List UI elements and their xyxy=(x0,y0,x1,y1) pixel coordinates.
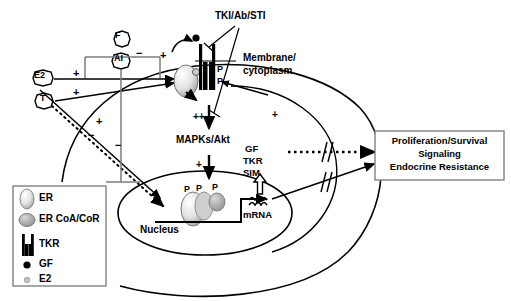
pathway-label-tkr: TKR xyxy=(243,156,263,166)
sign-mapks-out: + xyxy=(196,160,202,171)
nucleus-label: Nucleus xyxy=(140,225,179,236)
sign-e2-to-receptor: + xyxy=(73,68,79,80)
inhibitor-label-tki: TKI/Ab/STI xyxy=(215,11,266,22)
phospho-mark-membrane-1: P xyxy=(217,65,223,75)
membrane-label-line2: cytoplasm xyxy=(243,66,292,77)
pathway-label-gf: GF xyxy=(245,144,258,154)
sign-t-inhibition: − xyxy=(88,130,94,142)
gf-ligand-dot xyxy=(192,34,199,41)
ligand-label-T: T xyxy=(40,94,46,104)
nuclear-coactivator-oval xyxy=(209,193,225,211)
legend-glyph-e2 xyxy=(24,277,30,283)
membrane-ER-ligand-dot xyxy=(193,69,200,76)
pathway-label-mrna: mRNA xyxy=(243,210,272,220)
cell-membrane-outline xyxy=(62,65,381,297)
pathway-label-sim: SIM xyxy=(243,168,260,178)
sign-t-to-nucleus: + xyxy=(96,116,102,128)
legend-label-e2: E2 xyxy=(39,274,51,285)
phospho-mark-nuclear-2: P xyxy=(196,184,202,194)
legend-glyph-er xyxy=(20,189,34,209)
pathway-label-mapks: MAPKs/Akt xyxy=(176,135,230,146)
legend-glyph-gf xyxy=(23,261,30,268)
phospho-mark-membrane-2: P xyxy=(217,77,223,87)
legend-label-er: ER xyxy=(39,193,53,204)
arrow-gf-autocrine xyxy=(172,40,192,52)
outcome-line-2: Signaling xyxy=(377,149,502,159)
phospho-mark-nuclear-3: P xyxy=(212,183,218,193)
legend-glyph-er-coa xyxy=(19,214,35,227)
legend-label-er-coa: ER CoA/CoR xyxy=(39,214,100,225)
ligand-label-E2: E2 xyxy=(34,71,45,81)
sign-membrane-down: ++ xyxy=(193,112,205,123)
diagram-canvas: F AI E2 T TKI/Ab/STI Membrane/ cytoplasm… xyxy=(0,0,511,301)
ligand-label-F: F xyxy=(115,31,121,41)
sign-mapks-in: + xyxy=(272,110,278,121)
phospho-mark-nuclear-1: P xyxy=(184,185,190,195)
legend-label-tkr: TKR xyxy=(39,239,60,250)
sign-t-to-receptor: + xyxy=(73,87,79,99)
membrane-label-line1: Membrane/ xyxy=(243,53,296,64)
outcome-line-3: Endocrine Resistance xyxy=(377,162,502,172)
ligand-label-AI: AI xyxy=(114,54,123,64)
outcome-line-1: Proliferation/Survival xyxy=(377,136,502,146)
legend-label-gf: GF xyxy=(39,259,53,270)
sign-ai-inhibit-top: − xyxy=(136,48,142,60)
sign-gf-autocrine: + xyxy=(160,50,166,62)
sign-ai-inhibit-bottom: − xyxy=(115,140,121,152)
